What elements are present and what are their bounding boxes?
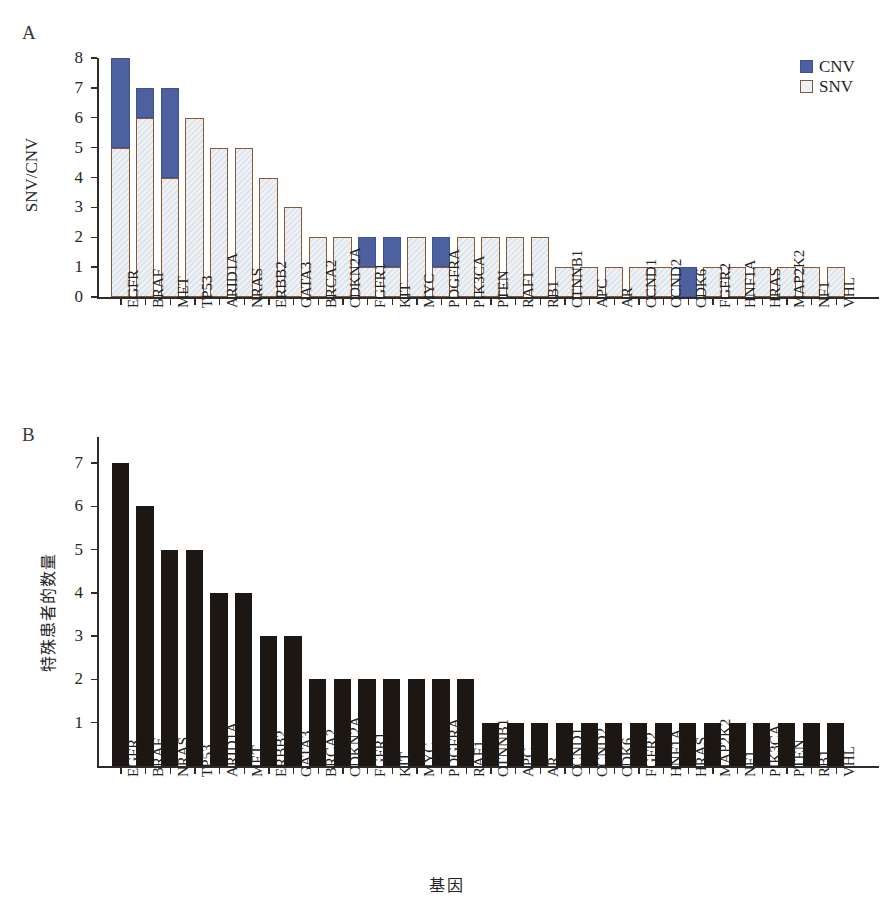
x-tick-mark: [515, 767, 516, 774]
x-category-label: VHL: [842, 746, 857, 777]
x-category-label: HNF1A: [669, 729, 684, 777]
y-tick-label: 3: [57, 627, 83, 644]
y-tick-mark: [91, 679, 97, 680]
panel-b-chart: 特殊患者的数量 1234567 EGFRBRAFNRASTP53ARID1AME…: [0, 0, 893, 880]
x-category-label: MYC: [422, 743, 437, 777]
x-tick-mark: [342, 767, 343, 774]
x-category-label: FGFR1: [373, 732, 388, 777]
y-tick-label: 5: [57, 541, 83, 558]
x-category-label: KIT: [398, 752, 413, 777]
bar: [161, 550, 178, 766]
y-tick-label: 7: [57, 454, 83, 471]
x-category-label: BRCA2: [324, 729, 339, 777]
x-tick-mark: [293, 767, 294, 774]
x-category-label: CCND1: [570, 728, 585, 777]
panel-b-y-axis: [97, 437, 99, 767]
x-category-label: MAP2K2: [718, 719, 733, 777]
y-tick-mark: [91, 549, 97, 550]
y-tick-mark: [91, 635, 97, 636]
x-category-label: NF1: [743, 750, 758, 777]
x-category-label: AR: [546, 756, 561, 777]
x-category-label: ERBB2: [274, 730, 289, 777]
x-tick-mark: [392, 767, 393, 774]
x-tick-mark: [219, 767, 220, 774]
y-tick-label: 4: [57, 584, 83, 601]
x-tick-mark: [244, 767, 245, 774]
x-tick-mark: [540, 767, 541, 774]
x-category-label: CCND2: [595, 728, 610, 777]
x-category-label: PIK3CA: [768, 724, 783, 777]
x-category-label: RB1: [817, 749, 832, 777]
y-tick-mark: [91, 506, 97, 507]
x-tick-mark: [614, 767, 615, 774]
x-category-label: PTEN: [792, 740, 807, 778]
panel-b-y-axis-title: 特殊患者的数量: [35, 527, 59, 697]
figure-root: A B SNV/CNV 012345678 EGFRBRAFMETTP53ARI…: [0, 0, 893, 913]
x-tick-mark: [836, 767, 837, 774]
bar: [186, 550, 203, 766]
x-tick-mark: [170, 767, 171, 774]
x-tick-mark: [663, 767, 664, 774]
y-tick-label: 2: [57, 670, 83, 687]
x-category-label: BRAF: [151, 738, 166, 777]
y-tick-mark: [91, 592, 97, 593]
x-tick-mark: [564, 767, 565, 774]
x-tick-mark: [416, 767, 417, 774]
x-tick-mark: [688, 767, 689, 774]
x-category-label: NRAS: [176, 737, 191, 777]
x-tick-mark: [194, 767, 195, 774]
x-tick-mark: [466, 767, 467, 774]
x-category-label: ARID1A: [225, 722, 240, 777]
x-tick-mark: [712, 767, 713, 774]
bar: [136, 506, 153, 766]
x-category-label: FGFR2: [644, 732, 659, 777]
figure-x-axis-title: 基因: [0, 872, 893, 896]
x-category-label: CDK6: [620, 738, 635, 777]
x-category-label: GATA3: [299, 731, 314, 777]
x-category-label: PDGFRA: [447, 718, 462, 777]
x-category-label: MET: [250, 745, 265, 777]
x-tick-mark: [318, 767, 319, 774]
x-category-label: RAF1: [472, 740, 487, 777]
x-tick-mark: [441, 767, 442, 774]
x-tick-mark: [811, 767, 812, 774]
x-tick-mark: [589, 767, 590, 774]
x-tick-mark: [268, 767, 269, 774]
x-tick-mark: [145, 767, 146, 774]
x-tick-mark: [638, 767, 639, 774]
x-category-label: TP53: [200, 744, 215, 777]
x-category-label: CTNNB1: [496, 719, 511, 777]
x-category-label: CDKN2A: [348, 716, 363, 777]
x-category-label: EGFR: [126, 739, 141, 777]
x-category-label: APC: [521, 748, 536, 777]
y-tick-label: 1: [57, 714, 83, 731]
x-tick-mark: [786, 767, 787, 774]
y-tick-label: 6: [57, 497, 83, 514]
x-tick-mark: [490, 767, 491, 774]
bar: [112, 463, 129, 766]
y-tick-mark: [91, 722, 97, 723]
x-tick-mark: [762, 767, 763, 774]
y-tick-mark: [91, 462, 97, 463]
x-tick-mark: [120, 767, 121, 774]
x-tick-mark: [737, 767, 738, 774]
x-tick-mark: [367, 767, 368, 774]
x-category-label: HRAS: [694, 737, 709, 777]
